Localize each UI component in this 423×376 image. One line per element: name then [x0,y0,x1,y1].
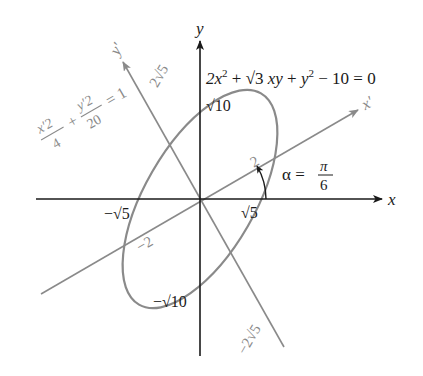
label-two-sqrt5-pos: 2√5 [146,62,171,90]
x-prime-axis-label: x′ [357,93,376,114]
angle-label: α = π 6 [282,158,333,193]
label-two-pos: 2 [247,153,261,171]
label-sqrt5-neg: −√5 [104,205,130,222]
label-sqrt5-pos: √5 [241,204,258,221]
label-two-neg: −2 [134,233,156,255]
svg-text:= 1: = 1 [102,84,129,109]
label-sqrt10-neg: −√10 [153,293,187,310]
ellipse-equation: 2x2 + √3 xy + y2 − 10 = 0 [206,67,376,88]
svg-text:π: π [320,158,328,174]
y-axis-label: y [194,19,204,38]
rotated-ellipse-equation: x′2 4 + y′2 20 = 1 [32,76,134,156]
svg-text:6: 6 [320,177,328,193]
ellipse-rotation-diagram: x y x′ y′ 2x2 + √3 xy + y2 − 10 = 0 x′2 … [0,0,423,376]
x-axis-label: x [387,190,396,209]
svg-text:20: 20 [84,112,104,132]
y-prime-axis-label: y′ [105,40,127,60]
label-two-sqrt5-neg: −2√5 [234,322,264,357]
svg-text:4: 4 [50,135,64,151]
label-sqrt10-pos: √10 [206,97,231,114]
svg-text:+: + [64,112,80,131]
svg-text:α =: α = [282,165,305,184]
